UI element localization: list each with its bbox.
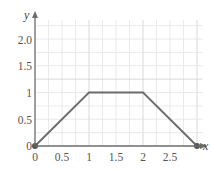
y-tick-label: 2.0 (18, 34, 33, 46)
x-tick-labels: 0 0.5 1 1.5 2 2.5 (32, 151, 177, 163)
x-axis-label: x (202, 139, 209, 153)
y-tick-labels: 0 0.5 1 1.5 2.0 (18, 34, 33, 152)
x-tick-label: 2.5 (163, 151, 178, 163)
x-tick-label: 1.5 (109, 151, 124, 163)
x-tick-label: 0.5 (55, 151, 70, 163)
y-tick-label: 1 (26, 87, 32, 99)
x-tick-label: 0 (32, 151, 38, 163)
chart: x y 0 0.5 1 1.5 2 2.5 0 0.5 1 1.5 2.0 (0, 0, 212, 170)
y-tick-label: 1.5 (18, 60, 33, 72)
x-tick-label: 1 (86, 151, 92, 163)
y-tick-label: 0.5 (18, 114, 33, 126)
y-axis-arrow-icon (32, 11, 38, 18)
x-tick-label: 2 (140, 151, 146, 163)
y-axis-label: y (23, 8, 30, 22)
y-tick-label: 0 (26, 140, 32, 152)
